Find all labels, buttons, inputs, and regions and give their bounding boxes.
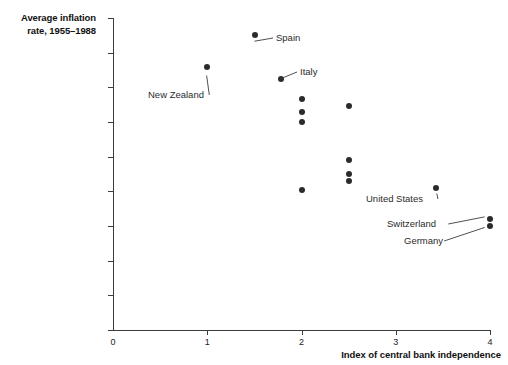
data-point <box>204 64 210 70</box>
y-axis-line <box>113 18 114 331</box>
y-tick-mark <box>108 122 113 123</box>
y-tick-mark <box>108 295 113 296</box>
data-point <box>299 187 305 193</box>
annotation-leader-line <box>254 38 273 41</box>
annotation-leader-lines <box>0 0 508 365</box>
y-axis-title: Average inflation rate, 1955–1988 <box>0 12 96 37</box>
scatter-chart: Average inflation rate, 1955–1988 012345… <box>0 0 508 365</box>
data-point <box>433 185 439 191</box>
y-tick-mark <box>108 18 113 19</box>
y-tick-mark <box>108 261 113 262</box>
annotation-label: New Zealand <box>148 89 204 100</box>
data-point <box>299 96 305 102</box>
annotation-label: Italy <box>300 66 317 77</box>
annotation-label: United States <box>366 193 423 204</box>
data-point <box>487 223 493 229</box>
data-point <box>299 119 305 125</box>
x-tick-label: 4 <box>475 337 505 347</box>
x-tick-mark <box>490 330 491 335</box>
data-point <box>346 171 352 177</box>
annotation-label: Germany <box>404 235 443 246</box>
data-point <box>346 178 352 184</box>
annotation-leader-line <box>444 227 485 241</box>
annotation-leader-line <box>437 193 438 199</box>
y-axis-title-line-2: rate, 1955–1988 <box>0 25 96 38</box>
annotation-leader-line <box>207 75 210 95</box>
x-tick-label: 3 <box>381 337 411 347</box>
y-tick-mark <box>108 157 113 158</box>
y-tick-mark <box>108 53 113 54</box>
x-tick-mark <box>396 330 397 335</box>
annotation-leader-line <box>448 217 484 224</box>
y-axis-title-line-1: Average inflation <box>0 12 96 25</box>
data-point <box>346 103 352 109</box>
x-tick-mark <box>207 330 208 335</box>
data-point <box>346 157 352 163</box>
x-tick-mark <box>302 330 303 335</box>
data-point <box>252 32 258 38</box>
x-tick-label: 0 <box>98 337 128 347</box>
x-axis-title: Index of central bank independence <box>229 349 501 360</box>
x-tick-label: 1 <box>192 337 222 347</box>
annotation-label: Switzerland <box>387 218 436 229</box>
data-point <box>299 109 305 115</box>
y-tick-mark <box>108 226 113 227</box>
annotation-label: Spain <box>276 32 300 43</box>
data-point <box>487 216 493 222</box>
y-tick-mark <box>108 191 113 192</box>
data-point <box>278 76 284 82</box>
y-tick-mark <box>108 330 113 331</box>
x-tick-label: 2 <box>287 337 317 347</box>
y-tick-mark <box>108 87 113 88</box>
